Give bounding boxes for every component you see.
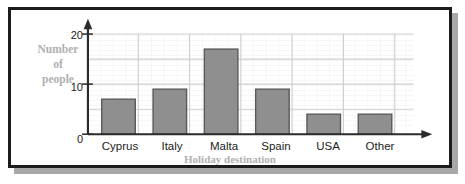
x-label-cyprus: Cyprus xyxy=(102,140,138,152)
bar-italy xyxy=(153,89,187,134)
x-label-malta: Malta xyxy=(210,140,238,152)
bar-usa xyxy=(307,114,341,134)
x-label-other: Other xyxy=(366,140,395,152)
x-label-spain: Spain xyxy=(261,140,290,152)
x-label-italy: Italy xyxy=(161,140,182,152)
bar-malta xyxy=(204,49,238,134)
chart-panel: Number of people 0 10 20 xyxy=(8,7,452,168)
bar-spain xyxy=(256,89,290,134)
bar-cyprus xyxy=(102,99,136,134)
chart-figure: Number of people 0 10 20 xyxy=(0,0,465,184)
x-label-usa: USA xyxy=(316,140,340,152)
x-axis-title: Holiday destination xyxy=(11,153,449,165)
bar-other xyxy=(358,114,392,134)
